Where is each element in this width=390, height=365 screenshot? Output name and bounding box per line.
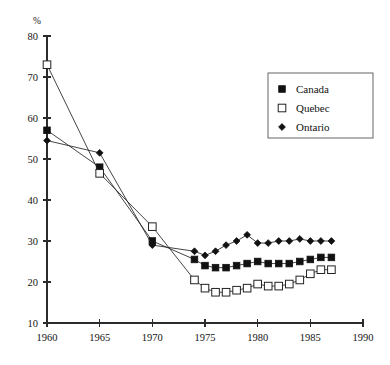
line-chart: 1020304050607080196019651970197519801985… [0, 0, 390, 365]
x-axis-tick-label: 1985 [300, 332, 321, 343]
data-point [233, 286, 241, 294]
y-axis-tick-label: 10 [28, 318, 39, 329]
y-axis-tick-label: 60 [28, 113, 39, 124]
y-axis-tick-label: 20 [28, 277, 39, 288]
data-point [265, 260, 272, 267]
x-axis-tick-label: 1970 [142, 332, 163, 343]
chart-legend: CanadaQuebecOntario [268, 73, 373, 138]
data-point [202, 252, 209, 259]
data-point [307, 238, 314, 245]
data-point [96, 149, 103, 156]
legend-marker-icon [278, 104, 286, 112]
data-point [265, 240, 272, 247]
data-point [328, 266, 336, 274]
data-point [264, 282, 272, 290]
data-point [222, 288, 230, 296]
data-point [202, 262, 209, 269]
y-axis-tick-label: 80 [28, 31, 39, 42]
data-point [317, 238, 324, 245]
data-point [212, 264, 219, 271]
data-point [201, 284, 209, 292]
data-point [254, 280, 262, 288]
data-point [275, 260, 282, 267]
x-axis-tick-label: 1975 [195, 332, 216, 343]
data-point [244, 260, 251, 267]
data-point [191, 248, 198, 255]
data-point [233, 238, 240, 245]
x-axis-tick-label: 1990 [353, 332, 374, 343]
data-point [317, 266, 325, 274]
y-axis-tick-label: 30 [28, 236, 39, 247]
data-point [286, 238, 293, 245]
data-point [233, 262, 240, 269]
chart-axes: 1020304050607080196019651970197519801985… [28, 16, 374, 343]
data-point [297, 258, 304, 265]
data-point [43, 61, 51, 69]
data-point [328, 254, 335, 261]
data-point [296, 276, 304, 284]
series-ontario [44, 137, 335, 259]
y-axis-tick-label: 70 [28, 72, 39, 83]
legend-item-label: Quebec [296, 102, 330, 114]
data-point [223, 264, 230, 271]
y-axis-tick-label: 40 [28, 195, 39, 206]
x-axis-tick-label: 1980 [247, 332, 268, 343]
data-point [44, 137, 51, 144]
data-point [191, 276, 199, 284]
data-point [285, 280, 293, 288]
data-point [275, 282, 283, 290]
legend-item-quebec: Quebec [278, 102, 330, 114]
data-point [223, 242, 230, 249]
data-point [212, 288, 220, 296]
data-point [307, 256, 314, 263]
data-point [243, 284, 251, 292]
y-axis-unit-label: % [33, 16, 41, 26]
data-point [212, 248, 219, 255]
x-axis-tick-label: 1960 [37, 332, 58, 343]
y-axis-tick-label: 50 [28, 154, 39, 165]
data-point [149, 223, 157, 231]
data-point [275, 238, 282, 245]
data-point [254, 258, 261, 265]
x-axis-tick-label: 1965 [89, 332, 110, 343]
data-point [44, 127, 51, 134]
data-point [286, 260, 293, 267]
data-point [328, 238, 335, 245]
legend-item-label: Ontario [296, 121, 330, 133]
legend-item-label: Canada [296, 83, 329, 95]
data-point [191, 256, 198, 263]
data-point [318, 254, 325, 261]
chart-container: 1020304050607080196019651970197519801985… [0, 0, 390, 365]
data-point [296, 236, 303, 243]
data-point [307, 270, 315, 278]
legend-marker-icon [279, 86, 286, 93]
data-point [96, 170, 104, 178]
